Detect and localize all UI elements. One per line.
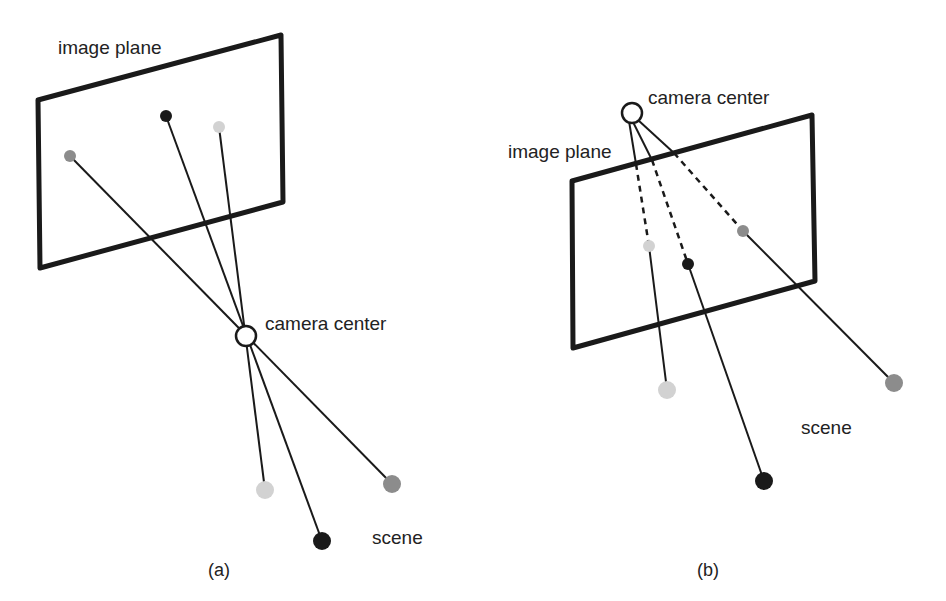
image-plane-a bbox=[38, 35, 283, 268]
camera-center-b bbox=[622, 103, 642, 123]
scene-point-light-a bbox=[256, 481, 274, 499]
ray-black-b-dashed bbox=[652, 160, 688, 264]
camera-center-a bbox=[236, 326, 256, 346]
figure-canvas: image plane camera center scene (a) came… bbox=[0, 0, 946, 601]
scene-point-black-a bbox=[313, 532, 331, 550]
scene-point-light-b bbox=[658, 381, 676, 399]
camera-center-label-b: camera center bbox=[648, 87, 770, 108]
caption-a: (a) bbox=[208, 560, 230, 580]
image-point-light-a bbox=[213, 121, 225, 133]
image-plane-label-b: image plane bbox=[508, 141, 612, 162]
ray-light-b-solid bbox=[649, 246, 667, 390]
panel-b: camera center image plane scene (b) bbox=[508, 87, 903, 580]
ray-gray-b-dashed bbox=[674, 153, 743, 231]
ray-gray-b-solid bbox=[743, 231, 894, 383]
image-plane-label-a: image plane bbox=[58, 37, 162, 58]
panel-a: image plane camera center scene (a) bbox=[38, 35, 423, 580]
scene-point-gray-a bbox=[383, 475, 401, 493]
caption-b: (b) bbox=[697, 560, 719, 580]
scene-label-b: scene bbox=[801, 417, 852, 438]
image-point-gray-b bbox=[737, 225, 749, 237]
image-point-gray-a bbox=[64, 150, 76, 162]
ray-light-a bbox=[219, 127, 265, 490]
ray-light-b-dashed bbox=[636, 164, 649, 246]
image-point-black-b bbox=[682, 258, 694, 270]
image-point-black-a bbox=[160, 110, 172, 122]
camera-center-label-a: camera center bbox=[265, 313, 387, 334]
image-point-light-b bbox=[643, 240, 655, 252]
scene-point-gray-b bbox=[885, 374, 903, 392]
ray-black-b-solid-top bbox=[633, 122, 652, 160]
scene-label-a: scene bbox=[372, 527, 423, 548]
ray-gray-b-solid-top bbox=[638, 120, 674, 153]
scene-point-black-b bbox=[755, 472, 773, 490]
